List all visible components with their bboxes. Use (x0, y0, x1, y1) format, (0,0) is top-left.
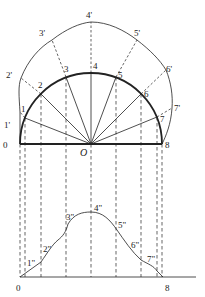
label-dev-4: 4" (94, 203, 103, 213)
label-outer-5: 5' (134, 28, 141, 38)
label-dev-8: 8 (165, 283, 170, 293)
label-point-6: 6 (144, 89, 149, 99)
label-point-7: 7 (160, 114, 165, 124)
label-outer-7: 7' (174, 103, 181, 113)
label-dev-5: 5" (118, 220, 127, 230)
radii (25, 73, 157, 144)
label-dev-3: 3" (66, 212, 75, 222)
label-point-8: 8 (165, 140, 170, 150)
label-outer-3: 3' (39, 28, 46, 38)
development-labels: 0 8 1" 2" 3" 4" 5" 6" 7" (16, 203, 170, 293)
label-outer-6: 6' (166, 64, 173, 74)
label-outer-4: 4' (86, 10, 93, 20)
label-dev-2: 2" (43, 244, 52, 254)
label-dev-7: 7" (147, 254, 156, 264)
label-point-4: 4 (93, 61, 98, 71)
label-point-5: 5 (118, 70, 123, 80)
label-point-0: 0 (3, 140, 8, 150)
label-dev-6: 6" (131, 240, 140, 250)
development-diagram: 0 1 2 3 4 5 6 7 8 O 1' 2' 3' 4' 5' 6' 7'… (0, 0, 205, 297)
development-curve (20, 212, 163, 277)
label-outer-1: 1' (4, 120, 11, 130)
label-dev-0: 0 (16, 283, 21, 293)
label-point-3: 3 (64, 64, 69, 74)
label-center-O: O (80, 147, 87, 158)
label-point-1: 1 (21, 104, 26, 114)
label-outer-2: 2' (6, 70, 13, 80)
label-dev-1: 1" (27, 258, 36, 268)
label-point-2: 2 (38, 80, 43, 90)
